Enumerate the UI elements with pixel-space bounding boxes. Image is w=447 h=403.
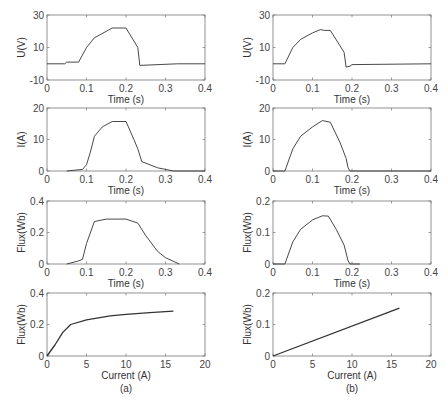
x-tick-label: 0.4 [424,267,438,278]
x-tick-label: 0.4 [198,267,212,278]
x-tick-label: 0.2 [345,174,359,185]
x-tick-label: 0.4 [424,83,438,94]
x-tick-label: 5 [310,359,316,370]
panel-caption: (b) [346,383,358,394]
y-tick-label: 0 [264,166,270,177]
x-tick-label: 0.4 [198,174,212,185]
x-tick-label: 0.4 [198,83,212,94]
y-axis-label: Flux(Wb) [242,304,253,345]
plot-area [47,201,205,264]
x-axis-label: Time (s) [334,94,370,105]
y-tick-label: 20 [259,103,271,114]
x-tick-label: 5 [84,359,90,370]
x-tick-label: 0 [270,83,276,94]
y-tick-label: 0 [38,259,44,270]
y-tick-label: 0.4 [30,288,44,299]
x-tick-label: 0.3 [159,83,173,94]
x-tick-label: 0.2 [345,267,359,278]
x-tick-label: 20 [199,359,211,370]
plot-area [47,108,205,171]
plot-area [273,201,431,264]
y-tick-label: 10 [33,42,45,53]
x-tick-label: 0.1 [306,83,320,94]
y-axis-label: I(A) [16,131,27,147]
chart-a-voltage: 00.10.20.30.4-101030Time (s)U(V) [16,10,212,106]
y-tick-label: 0 [38,166,44,177]
x-tick-label: 0.3 [159,174,173,185]
y-tick-label: 20 [33,103,45,114]
plot-area [273,108,431,171]
y-tick-label: 0 [264,351,270,362]
x-axis-label: Current (A) [101,370,150,381]
y-tick-label: 30 [259,10,271,21]
y-tick-label: 0.1 [256,227,270,238]
y-tick-label: 0.4 [30,196,44,207]
x-axis-label: Time (s) [334,278,370,289]
chart-a-flux-current: 0510152000.20.4Current (A)Flux(Wb) [16,288,211,382]
chart-b-flux-current: 0510152000.10.2Current (A)Flux(Wb) [242,288,437,382]
y-tick-label: 10 [259,42,271,53]
x-tick-label: 0.4 [424,174,438,185]
x-axis-label: Time (s) [108,278,144,289]
y-axis-label: Flux(Wb) [16,304,27,345]
x-axis-label: Time (s) [108,94,144,105]
data-series-line [273,308,399,356]
chart-b-flux-time: 00.10.20.30.400.10.2Time (s)Flux(Wb) [242,196,438,290]
chart-b-voltage: 00.10.20.30.4-101030Time (s)U(V) [242,10,438,106]
y-tick-label: 10 [33,134,45,145]
data-series-line [273,121,431,171]
y-tick-label: 0 [264,259,270,270]
figure-canvas: 00.10.20.30.4-101030Time (s)U(V)00.10.20… [0,0,447,403]
x-axis-label: Time (s) [108,185,144,196]
x-axis-label: Current (A) [327,370,376,381]
panel-caption: (a) [120,383,132,394]
data-series-line [67,219,180,264]
x-tick-label: 10 [346,359,358,370]
x-tick-label: 0.2 [345,83,359,94]
plot-area [47,15,205,80]
x-tick-label: 0.1 [80,83,94,94]
y-axis-label: Flux(Wb) [242,212,253,253]
x-axis-label: Time (s) [334,185,370,196]
data-series-line [273,216,360,264]
chart-b-current: 00.10.20.30.401020Time (s)I(A) [242,103,438,197]
y-axis-label: Flux(Wb) [16,212,27,253]
y-tick-label: 0.2 [30,319,44,330]
x-tick-label: 0.3 [159,267,173,278]
x-tick-label: 0.3 [385,174,399,185]
x-tick-label: 0.3 [385,83,399,94]
plot-area [273,15,431,80]
x-tick-label: 10 [120,359,132,370]
x-tick-label: 0.3 [385,267,399,278]
x-tick-label: 0 [270,359,276,370]
y-tick-label: 0 [38,351,44,362]
x-tick-label: 0 [270,267,276,278]
y-tick-label: -10 [30,75,45,86]
y-tick-label: 0.2 [30,227,44,238]
y-tick-label: 0.2 [256,196,270,207]
data-series-line [273,30,431,67]
y-tick-label: 0.1 [256,319,270,330]
x-tick-label: 0.1 [80,267,94,278]
x-tick-label: 0.1 [80,174,94,185]
y-axis-label: I(A) [242,131,253,147]
x-tick-label: 15 [386,359,398,370]
data-series-line [47,311,173,356]
x-tick-label: 0.1 [306,267,320,278]
x-tick-label: 0 [44,359,50,370]
data-series-line [47,28,205,65]
y-axis-label: U(V) [16,37,27,58]
x-tick-label: 0.2 [119,267,133,278]
data-series-line [67,122,205,172]
y-tick-label: 30 [33,10,45,21]
x-tick-label: 0 [44,83,50,94]
x-tick-label: 0 [270,174,276,185]
x-tick-label: 0 [44,267,50,278]
x-tick-label: 0.2 [119,174,133,185]
x-tick-label: 15 [160,359,172,370]
x-tick-label: 0.2 [119,83,133,94]
x-tick-label: 20 [425,359,437,370]
y-tick-label: 10 [259,134,271,145]
chart-a-current: 00.10.20.30.401020Time (s)I(A) [16,103,212,197]
chart-a-flux-time: 00.10.20.30.400.20.4Time (s)Flux(Wb) [16,196,212,290]
